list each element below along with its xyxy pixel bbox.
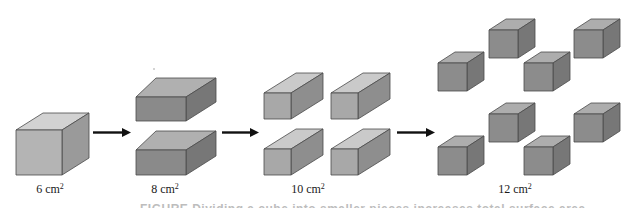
small-cube <box>524 136 570 175</box>
small-cube <box>574 103 620 142</box>
stage-2-slabs <box>136 78 216 175</box>
arrow-2 <box>222 128 259 137</box>
small-cube <box>574 19 620 58</box>
small-cube <box>524 52 570 91</box>
stage-3-label: 10 cm2 <box>291 182 325 196</box>
small-cube <box>438 136 484 175</box>
diagram-canvas <box>0 0 632 208</box>
stage-1-value: 6 <box>36 182 42 196</box>
stage-2-value: 8 <box>151 182 157 196</box>
speck <box>153 68 154 69</box>
bar-top-right <box>331 73 390 119</box>
bar-bottom-left <box>264 129 323 175</box>
slab-bottom <box>136 131 216 175</box>
right-arrow-icon <box>122 128 131 137</box>
cube-front-face <box>16 130 62 175</box>
bar-top-left <box>264 73 323 119</box>
small-cube <box>438 52 484 91</box>
figure-caption: FIGURE Dividing a cube into smaller piec… <box>140 202 586 208</box>
stage-3-unit: cm <box>306 182 321 196</box>
small-cube <box>489 103 535 142</box>
stage-2-unit: cm <box>160 182 175 196</box>
surface-area-diagram: 6 cm2 8 cm2 10 cm2 12 cm2 FIGURE Dividin… <box>0 0 632 208</box>
bar-bottom-right <box>331 129 390 175</box>
right-arrow-icon <box>250 128 259 137</box>
stage-4-exponent: 2 <box>528 182 532 191</box>
stage-1-exponent: 2 <box>60 182 64 191</box>
stage-1-label: 6 cm2 <box>36 182 64 196</box>
slab-top <box>136 78 216 121</box>
stage-4-unit: cm <box>513 182 528 196</box>
stage-2-label: 8 cm2 <box>151 182 179 196</box>
stage-2-exponent: 2 <box>175 182 179 191</box>
stage-1-unit: cm <box>45 182 60 196</box>
stage-3-exponent: 2 <box>321 182 325 191</box>
right-arrow-icon <box>426 128 435 137</box>
stage-4-value: 12 <box>498 182 510 196</box>
stage-4-label: 12 cm2 <box>498 182 532 196</box>
arrow-1 <box>93 128 131 137</box>
stage-3-value: 10 <box>291 182 303 196</box>
stage-1-cube <box>16 113 89 175</box>
small-cube <box>489 19 535 58</box>
stage-3-bars <box>264 73 390 175</box>
stage-4-small-cubes <box>438 19 620 175</box>
arrow-3 <box>397 128 435 137</box>
